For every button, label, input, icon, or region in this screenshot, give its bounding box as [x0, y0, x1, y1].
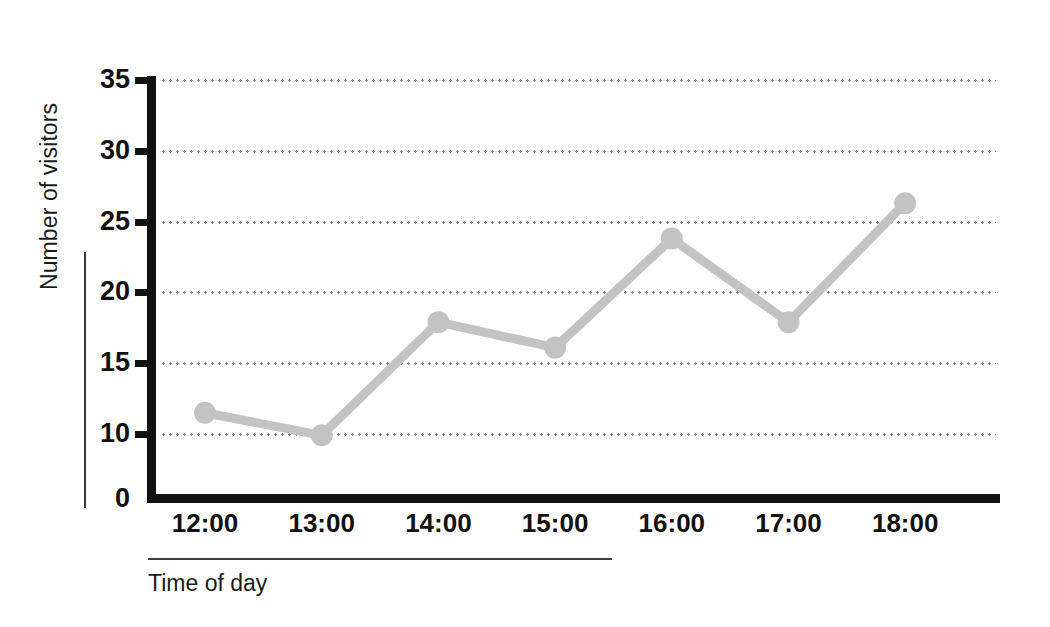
y-tick-mark-35	[135, 77, 149, 84]
y-tick-label-10: 10	[82, 420, 130, 447]
gridline-10	[160, 433, 996, 436]
y-tick-label-0: 0	[82, 485, 130, 512]
x-axis-title: Time of day	[148, 570, 267, 597]
gridline-25	[160, 221, 996, 224]
data-point-1400	[427, 311, 449, 333]
data-point-1200	[194, 402, 216, 424]
y-tick-mark-25	[135, 219, 149, 226]
x-axis-spine	[147, 494, 1000, 503]
y-tick-mark-10	[135, 431, 149, 438]
y-tick-label-20: 20	[82, 278, 130, 305]
y-axis-title: Number of visitors	[36, 70, 63, 290]
y-tick-label-15: 15	[82, 349, 130, 376]
x-tick-label-1800: 18:00	[835, 510, 975, 536]
data-point-1500	[544, 337, 566, 359]
data-point-1600	[661, 228, 683, 250]
data-point-1700	[778, 311, 800, 333]
y-tick-mark-20	[135, 289, 149, 296]
y-tick-mark-15	[135, 360, 149, 367]
y-tick-mark-30	[135, 148, 149, 155]
data-line-series-0	[205, 203, 905, 435]
gridline-20	[160, 291, 996, 294]
scan-artifact	[0, 0, 1050, 30]
y-tick-label-30: 30	[82, 137, 130, 164]
y-tick-label-25: 25	[82, 208, 130, 235]
gridline-35	[160, 79, 996, 82]
chart-page: Number of visitors Time of day 010152025…	[0, 0, 1050, 627]
gridline-30	[160, 150, 996, 153]
data-point-1800	[894, 192, 916, 214]
gridline-15	[160, 362, 996, 365]
x-axis-title-rule	[148, 558, 612, 560]
y-tick-label-35: 35	[82, 66, 130, 93]
data-markers	[194, 192, 916, 446]
